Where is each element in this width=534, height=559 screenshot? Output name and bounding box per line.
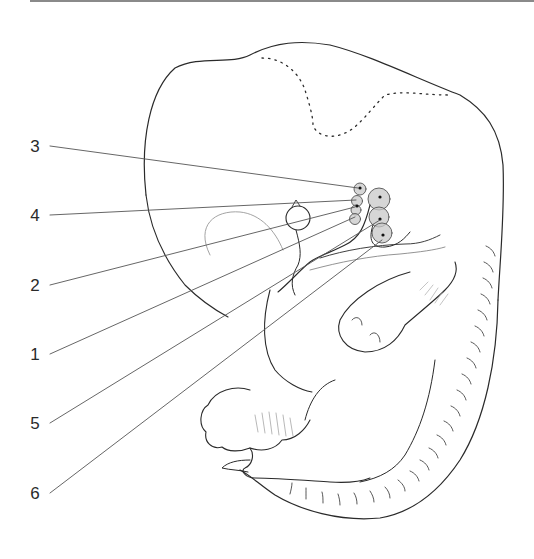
trunk-line [265,290,312,392]
label-4: 4 [28,207,42,224]
ventral-line [360,360,435,482]
back-contour [240,300,498,519]
label-1: 1 [28,346,42,363]
leader-4 [50,200,356,215]
lower-limb-hatching [255,412,293,436]
upper-limb [339,262,456,352]
leader-2 [50,207,355,285]
label-2: 2 [28,277,42,294]
umbilical-fold [305,380,335,420]
leader-1 [50,217,355,354]
leader-lines [50,146,382,493]
label-3: 3 [28,138,42,155]
tail-tip [222,460,250,472]
leader-5 [50,220,380,423]
somite-ticks [290,246,495,505]
maxillary-arc [205,212,283,255]
embryo-diagram [0,0,534,559]
lower-limb-lower [243,448,370,482]
upper-limb-hatching [420,282,448,305]
leader-6 [50,240,382,493]
brain-dotted-contour [262,58,450,136]
eye-icon [286,206,310,230]
face-contour [146,195,228,317]
label-5: 5 [28,415,42,432]
head-outline [144,42,503,300]
label-6: 6 [28,485,42,502]
eye-stalk [292,230,300,295]
leader-3 [50,146,358,188]
